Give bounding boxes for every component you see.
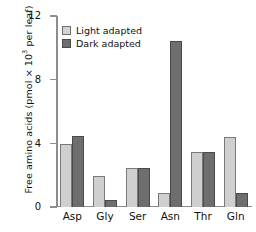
y-axis-title-prefix: Free amino acids (pmol × 10 <box>23 54 34 194</box>
bar <box>93 176 105 207</box>
legend-label-light: Light adapted <box>76 25 142 36</box>
bar <box>236 193 248 207</box>
bar <box>126 168 138 207</box>
x-axis-label: Asp <box>56 210 89 222</box>
bar-chart-figure: Free amino acids (pmol × 103 per leaf) 0… <box>0 0 256 232</box>
legend-item-dark: Dark adapted <box>62 38 142 49</box>
bar <box>203 152 215 207</box>
x-axis-label: Asn <box>154 210 187 222</box>
dark-swatch-icon <box>62 39 71 48</box>
y-tick-label: 12 <box>28 10 41 21</box>
x-axis-label: Gln <box>219 210 252 222</box>
x-axis-label: Gly <box>89 210 122 222</box>
bar <box>158 193 170 207</box>
bar <box>170 41 182 207</box>
bar <box>138 168 150 207</box>
y-tick-label: 0 <box>35 201 41 212</box>
bar <box>191 152 203 207</box>
chart-legend: Light adapted Dark adapted <box>62 25 142 49</box>
x-axis-labels: AspGlySerAsnThrGln <box>56 210 252 222</box>
bar <box>60 144 72 207</box>
legend-label-dark: Dark adapted <box>76 38 141 49</box>
bar <box>72 136 84 207</box>
bar <box>224 137 236 207</box>
bar-group <box>187 16 220 207</box>
y-axis-title: Free amino acids (pmol × 103 per leaf) <box>23 0 34 200</box>
y-tick-label: 8 <box>35 73 41 84</box>
y-axis-title-exponent: 3 <box>21 50 29 54</box>
y-tick-label: 4 <box>35 137 41 148</box>
bar-group <box>219 16 252 207</box>
x-axis-label: Thr <box>187 210 220 222</box>
light-swatch-icon <box>62 26 71 35</box>
bar <box>105 200 117 207</box>
bar-group <box>154 16 187 207</box>
x-axis-label: Ser <box>121 210 154 222</box>
legend-item-light: Light adapted <box>62 25 142 36</box>
